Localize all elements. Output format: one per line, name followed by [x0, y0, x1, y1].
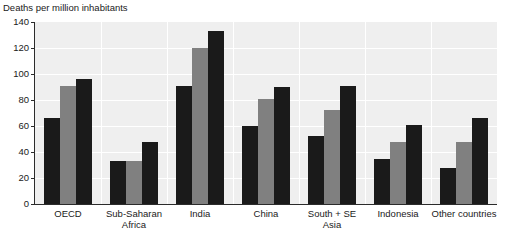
group-separator — [167, 22, 168, 204]
y-axis-tick — [31, 48, 35, 49]
bar — [60, 86, 76, 204]
x-axis-category-label: OECD — [35, 209, 101, 220]
bar — [208, 31, 224, 204]
y-axis-tick-label: 20 — [0, 173, 29, 183]
y-axis-tick-label: 140 — [0, 17, 29, 27]
bar — [340, 86, 356, 204]
y-axis-tick-label: 0 — [0, 199, 29, 209]
bar — [142, 142, 158, 204]
bar — [472, 118, 488, 204]
y-axis-tick — [31, 126, 35, 127]
bar-chart: Deaths per million inhabitants 020406080… — [0, 0, 511, 235]
y-axis-tick — [31, 178, 35, 179]
y-axis-tick-label: 40 — [0, 147, 29, 157]
x-axis-category-label: China — [233, 209, 299, 220]
group-separator — [299, 22, 300, 204]
x-axis-category-label: Indonesia — [365, 209, 431, 220]
gridline — [35, 48, 497, 49]
bar — [44, 118, 60, 204]
group-separator — [365, 22, 366, 204]
bar — [192, 48, 208, 204]
bar — [440, 168, 456, 204]
x-axis-line — [35, 204, 497, 205]
y-axis-tick — [31, 204, 35, 205]
group-separator — [233, 22, 234, 204]
bar — [308, 136, 324, 204]
bar — [390, 142, 406, 204]
bar — [126, 161, 142, 204]
y-axis-tick-label: 60 — [0, 121, 29, 131]
y-axis-tick — [31, 152, 35, 153]
x-axis-category-label: South + SE Asia — [299, 209, 365, 230]
bar — [324, 110, 340, 204]
bar — [406, 125, 422, 204]
y-axis-tick — [31, 22, 35, 23]
plot-area — [35, 22, 497, 204]
x-axis-category-label: Other countries — [431, 209, 497, 220]
y-axis-tick-label: 120 — [0, 43, 29, 53]
bar — [110, 161, 126, 204]
bar — [242, 126, 258, 204]
y-axis-tick-label: 80 — [0, 95, 29, 105]
group-separator — [101, 22, 102, 204]
bar — [374, 159, 390, 205]
chart-axis-title: Deaths per million inhabitants — [3, 2, 128, 13]
x-axis-category-label: Sub-Saharan Africa — [101, 209, 167, 230]
group-separator — [431, 22, 432, 204]
bar — [456, 142, 472, 204]
y-axis-tick — [31, 100, 35, 101]
bar — [258, 99, 274, 204]
bar — [76, 79, 92, 204]
gridline — [35, 74, 497, 75]
y-axis-tick-label: 100 — [0, 69, 29, 79]
y-axis-tick — [31, 74, 35, 75]
x-axis-category-label: India — [167, 209, 233, 220]
bar — [274, 87, 290, 204]
bar — [176, 86, 192, 204]
